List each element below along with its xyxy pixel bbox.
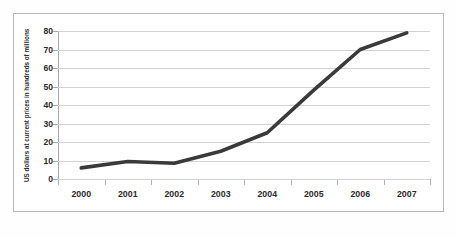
- y-axis-tick-label: 50: [34, 82, 53, 92]
- y-axis-tick-label: 20: [34, 137, 53, 147]
- data-series-line: [58, 31, 430, 179]
- x-axis-tick-mark: [430, 180, 431, 185]
- y-axis-tick-label: 30: [34, 119, 53, 129]
- y-axis-title-text: US dollars at current prices in hundreds…: [22, 29, 32, 182]
- y-axis-tick-label: 10: [34, 156, 53, 166]
- x-axis-tick-label: 2002: [152, 188, 196, 200]
- y-axis-tick-mark: [53, 50, 58, 51]
- x-axis-tick-mark: [105, 180, 106, 185]
- y-axis-tick-mark: [53, 161, 58, 162]
- series-polyline: [81, 33, 407, 168]
- x-axis-tick-label: 2005: [292, 188, 336, 200]
- x-axis-tick-mark: [151, 180, 152, 185]
- y-axis-tick-mark: [53, 142, 58, 143]
- y-axis-tick-label: 80: [34, 26, 53, 36]
- figure-canvas: US dollars at current prices in hundreds…: [0, 0, 456, 238]
- y-axis-tick-label: 70: [34, 45, 53, 55]
- y-axis-tick-mark: [53, 124, 58, 125]
- x-axis-tick-mark: [337, 180, 338, 185]
- y-axis-tick-mark: [53, 68, 58, 69]
- x-axis-tick-label: 2001: [106, 188, 150, 200]
- x-axis-tick-mark: [291, 180, 292, 185]
- y-axis-tick-label: 60: [34, 63, 53, 73]
- x-axis-tick-mark: [58, 180, 59, 185]
- x-axis-tick-mark: [244, 180, 245, 185]
- x-axis-tick-label: 2000: [59, 188, 103, 200]
- x-axis-tick-label: 2007: [385, 188, 429, 200]
- y-axis-tick-mark: [53, 105, 58, 106]
- x-axis-tick-label: 2004: [245, 188, 289, 200]
- x-axis-tick-label: 2006: [338, 188, 382, 200]
- y-axis-tick-label: 0: [34, 174, 53, 184]
- y-axis-tick-mark: [53, 31, 58, 32]
- x-axis-tick-mark: [384, 180, 385, 185]
- y-axis-tick-labels: 01020304050607080: [34, 26, 53, 184]
- x-axis-tick-labels: 20002001200220032004200520062007: [58, 188, 430, 202]
- y-axis-tick-label: 40: [34, 100, 53, 110]
- x-axis-tick-mark: [198, 180, 199, 185]
- y-axis-tick-mark: [53, 87, 58, 88]
- x-axis-tick-label: 2003: [199, 188, 243, 200]
